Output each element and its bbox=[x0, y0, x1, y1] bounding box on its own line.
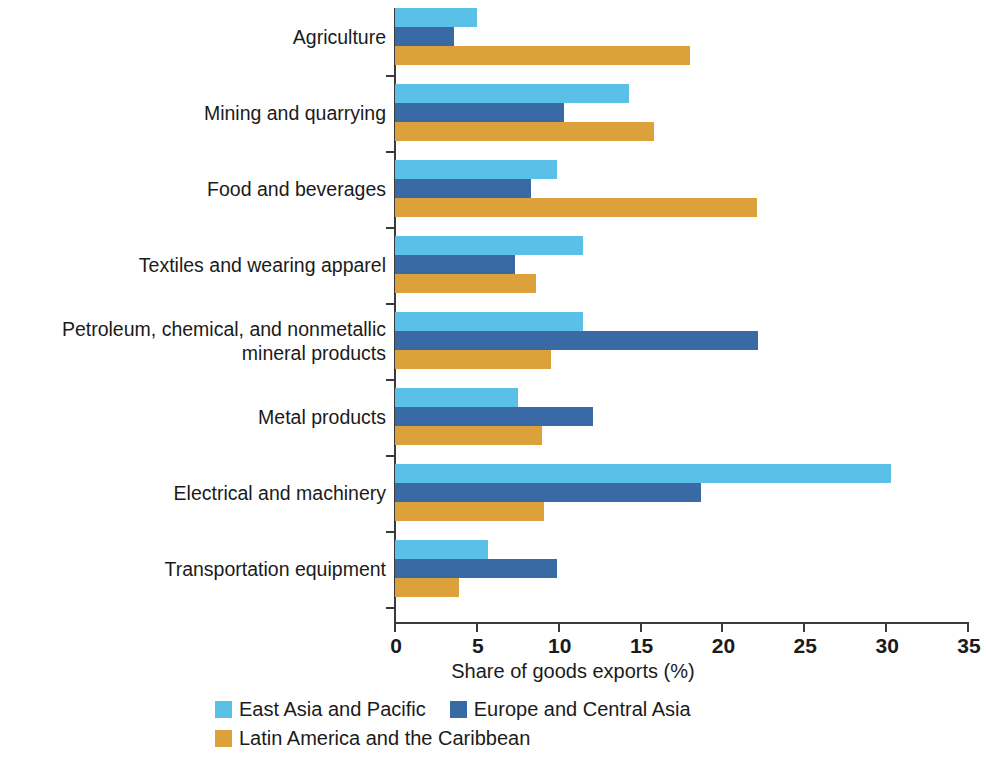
legend-row-1: East Asia and Pacific Europe and Central… bbox=[215, 698, 986, 721]
x-axis-tick bbox=[803, 622, 805, 632]
legend-label-series-0: East Asia and Pacific bbox=[239, 698, 426, 721]
bar bbox=[395, 331, 758, 350]
y-axis-tick bbox=[386, 455, 395, 457]
bar bbox=[395, 578, 459, 597]
legend-label-series-1: Europe and Central Asia bbox=[474, 698, 691, 721]
bar-group bbox=[395, 160, 968, 217]
x-axis-tick-label: 35 bbox=[939, 634, 986, 658]
bar bbox=[395, 540, 488, 559]
x-axis-tick-label: 10 bbox=[530, 634, 590, 658]
bar bbox=[395, 464, 891, 483]
bar-chart: AgricultureMining and quarryingFood and … bbox=[0, 0, 986, 758]
legend-swatch-icon-series-1 bbox=[450, 701, 467, 718]
y-axis-tick bbox=[386, 379, 395, 381]
plot-area bbox=[395, 8, 968, 622]
legend-swatch-icon-series-0 bbox=[215, 701, 232, 718]
bar-group bbox=[395, 464, 968, 521]
bar-group bbox=[395, 388, 968, 445]
category-label: Petroleum, chemical, and nonmetallic min… bbox=[6, 317, 386, 365]
x-axis-tick-label: 25 bbox=[775, 634, 835, 658]
legend-swatch-icon-series-2 bbox=[215, 730, 232, 747]
bar-group bbox=[395, 8, 968, 65]
bar-group bbox=[395, 312, 968, 369]
x-axis-line bbox=[394, 622, 969, 624]
bar bbox=[395, 198, 757, 217]
legend: East Asia and Pacific Europe and Central… bbox=[0, 698, 986, 756]
x-axis-tick-label: 30 bbox=[857, 634, 917, 658]
legend-item-east-asia-and-pacific: East Asia and Pacific bbox=[215, 698, 426, 721]
bar bbox=[395, 483, 701, 502]
bar bbox=[395, 46, 690, 65]
bar bbox=[395, 179, 531, 198]
x-axis-title: Share of goods exports (%) bbox=[0, 660, 986, 683]
x-axis-tick-label: 15 bbox=[612, 634, 672, 658]
bar bbox=[395, 350, 551, 369]
legend-row-2: Latin America and the Caribbean bbox=[215, 727, 986, 750]
y-axis-tick bbox=[386, 303, 395, 305]
bar bbox=[395, 84, 629, 103]
y-axis-tick bbox=[386, 227, 395, 229]
bar bbox=[395, 103, 564, 122]
bar-group bbox=[395, 540, 968, 597]
x-axis-tick bbox=[476, 622, 478, 632]
category-label: Electrical and machinery bbox=[6, 481, 386, 505]
x-axis-tick-label: 20 bbox=[693, 634, 753, 658]
x-axis-tick bbox=[394, 622, 396, 632]
bar bbox=[395, 388, 518, 407]
x-axis-tick bbox=[558, 622, 560, 632]
legend-item-latin-america-and-the-caribbean: Latin America and the Caribbean bbox=[215, 727, 530, 750]
category-label: Metal products bbox=[6, 405, 386, 429]
category-label: Textiles and wearing apparel bbox=[6, 253, 386, 277]
category-label: Mining and quarrying bbox=[6, 101, 386, 125]
x-axis-tick bbox=[967, 622, 969, 632]
category-label: Transportation equipment bbox=[6, 557, 386, 581]
bar bbox=[395, 160, 557, 179]
category-label: Agriculture bbox=[6, 25, 386, 49]
y-axis-tick bbox=[386, 75, 395, 77]
y-axis-tick bbox=[386, 607, 395, 609]
bar-group bbox=[395, 84, 968, 141]
category-axis-labels: AgricultureMining and quarryingFood and … bbox=[0, 8, 386, 622]
x-axis-tick-label: 5 bbox=[448, 634, 508, 658]
bar-group bbox=[395, 236, 968, 293]
x-axis-tick-label: 0 bbox=[366, 634, 426, 658]
category-label: Food and beverages bbox=[6, 177, 386, 201]
bar bbox=[395, 122, 654, 141]
bar bbox=[395, 274, 536, 293]
bar bbox=[395, 312, 583, 331]
bar bbox=[395, 502, 544, 521]
bar bbox=[395, 236, 583, 255]
x-axis-tick bbox=[885, 622, 887, 632]
bar bbox=[395, 559, 557, 578]
y-axis-tick bbox=[386, 151, 395, 153]
bar bbox=[395, 8, 477, 27]
bar bbox=[395, 255, 515, 274]
bar bbox=[395, 27, 454, 46]
legend-item-europe-and-central-asia: Europe and Central Asia bbox=[450, 698, 691, 721]
y-axis-tick bbox=[386, 531, 395, 533]
x-axis-tick bbox=[640, 622, 642, 632]
bar bbox=[395, 407, 593, 426]
bar bbox=[395, 426, 542, 445]
x-axis-tick bbox=[721, 622, 723, 632]
legend-label-series-2: Latin America and the Caribbean bbox=[239, 727, 530, 750]
